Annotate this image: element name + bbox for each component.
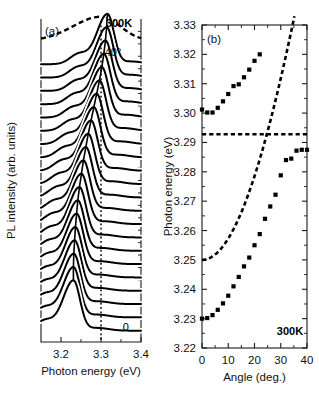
panel-b-datapoint [210,110,214,114]
panel-b-datapoint [252,243,256,247]
panel-b-yticklabel: 3.23 [174,313,196,325]
panel-b-datapoint [258,232,262,236]
panel-b-datapoint [289,157,293,161]
panel-b-datapoint [252,59,256,63]
figure-canvas: 3.23.33.4Photon energy (eV)PL intensity … [0,0,319,402]
panel-b-datapoint [247,255,251,259]
figure-root: 3.23.33.4Photon energy (eV)PL intensity … [0,0,319,402]
panel-b-xlabel: Angle (deg.) [223,371,286,383]
panel-b-datapoint [237,275,241,279]
panel-b-datapoint [200,317,204,321]
panel-b-yticklabel: 3.33 [174,19,196,31]
panel-b-datapoint [205,316,209,320]
panel-b-yticklabel: 3.29 [174,136,196,148]
panel-b-datapoint [231,284,235,288]
panel-b-xticklabel: 0 [199,354,205,366]
panel-a-xticklabel: 3.3 [93,348,109,360]
panel-b-datapoint [231,84,235,88]
panel-b-datapoint [247,68,251,72]
panel-b-datapoint [279,173,283,177]
panel-b-label: (b) [207,33,221,45]
panel-b-datapoint [210,313,214,317]
panel-b-datapoint [284,158,288,162]
panel-b-ylabel: Photon energy (eV) [162,136,174,236]
panel-b-temperature-label: 300K [277,325,303,337]
panel-b-yticklabel: 3.32 [174,48,196,60]
panel-b-datapoint [226,92,230,96]
panel-b-datapoint [305,148,309,152]
panel-b-yticklabel: 3.31 [174,78,196,90]
panel-b-datapoint [263,217,267,221]
panel-a-xlabel: Photon energy (eV) [41,365,141,377]
panel-b-datapoint [273,193,277,197]
panel-b-yticklabel: 3.22 [174,342,196,354]
panel-a-min-angle-label: 0 [123,321,129,333]
panel-b-yticklabel: 3.26 [174,225,196,237]
panel-b-datapoint [237,82,241,86]
panel-b-datapoint [216,308,220,312]
panel-a-ylabel: PL intensity (arb. units) [5,122,17,239]
panel-b-yticklabel: 3.25 [174,254,196,266]
panel-b-datapoint [300,148,304,152]
panel-b-datapoint [205,110,209,114]
panel-b-yticklabel: 3.30 [174,107,196,119]
panel-a-xticklabel: 3.4 [133,348,150,360]
panel-b-yticklabel: 3.28 [174,166,196,178]
panel-a-max-angle-label: 40° [105,46,122,58]
panel-b-datapoint [242,75,246,79]
panel-b-xticklabel: 30 [274,354,287,366]
panel-b-datapoint [268,204,272,208]
panel-b-datapoint [221,99,225,103]
panel-b-datapoint [242,264,246,268]
panel-b-datapoint [216,106,220,110]
panel-b-yticklabel: 3.27 [174,195,196,207]
panel-b-yticklabel: 3.24 [174,283,197,295]
panel-b-datapoint [258,52,262,56]
panel-b-xticklabel: 40 [301,354,314,366]
panel-a-temperature-label: 300K [106,17,132,29]
panel-b-xticklabel: 10 [222,354,235,366]
panel-b-datapoint [294,149,298,153]
panel-a-xticklabel: 3.2 [53,348,69,360]
panel-b-datapoint [221,301,225,305]
panel-b-datapoint [200,107,204,111]
panel-a-label: (a) [45,25,59,37]
panel-b-datapoint [226,294,230,298]
panel-b-xticklabel: 20 [248,354,261,366]
